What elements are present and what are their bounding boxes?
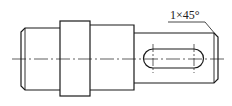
shaft-drawing: 1×45° [0,0,232,106]
keyway-slot [144,49,204,68]
chamfer-annotation: 1×45° [170,8,200,22]
collar [60,21,90,96]
middle-shaft-segment [90,25,134,90]
right-shaft-segment [134,33,218,83]
